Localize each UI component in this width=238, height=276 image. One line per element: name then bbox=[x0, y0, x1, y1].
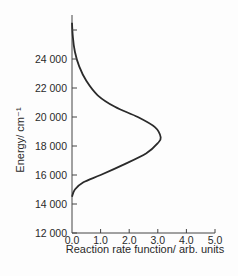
y-tick-label: 24 000 bbox=[35, 53, 67, 65]
axes bbox=[72, 15, 215, 233]
y-tick-label: 12 000 bbox=[35, 227, 67, 239]
x-axis-label: Reaction rate function/ arb. units bbox=[66, 243, 225, 255]
y-tick-label: 22 000 bbox=[35, 82, 67, 94]
reaction-rate-curve bbox=[72, 23, 161, 197]
y-tick-label: 14 000 bbox=[35, 198, 67, 210]
y-axis-ticks: 12 00014 00016 00018 00020 00022 00024 0… bbox=[35, 30, 77, 239]
y-tick-label: 16 000 bbox=[35, 169, 67, 181]
y-axis-label: Energy/ cm⁻¹ bbox=[14, 107, 26, 173]
y-tick-label: 18 000 bbox=[35, 140, 67, 152]
y-tick-label: 20 000 bbox=[35, 111, 67, 123]
chart: 0.01.02.03.04.05.0 12 00014 00016 00018 … bbox=[0, 0, 238, 276]
